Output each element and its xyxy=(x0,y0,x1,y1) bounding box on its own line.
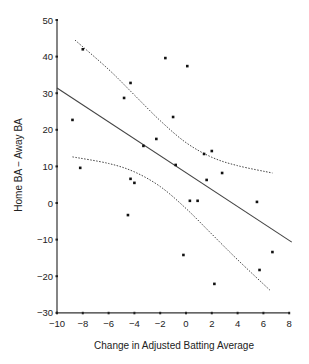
x-tick-label: 0 xyxy=(183,318,188,329)
y-tick-label: −30 xyxy=(37,307,53,318)
data-point xyxy=(189,200,192,203)
y-tick-mark xyxy=(56,275,59,277)
x-tick-label: 6 xyxy=(261,318,266,329)
x-tick-label: −6 xyxy=(103,318,114,329)
axes xyxy=(57,20,289,313)
x-tick-mark xyxy=(288,312,290,315)
y-tick-label: 40 xyxy=(42,51,53,62)
y-tick-label: 30 xyxy=(42,88,53,99)
data-point xyxy=(258,269,261,272)
data-point xyxy=(174,164,177,167)
data-point xyxy=(127,214,130,217)
x-tick-label: −10 xyxy=(49,318,65,329)
data-point xyxy=(186,65,189,68)
y-tick-label: −10 xyxy=(37,234,53,245)
lower-confidence-band xyxy=(72,157,269,290)
data-point xyxy=(213,283,216,286)
data-point xyxy=(133,182,136,185)
data-point xyxy=(182,254,185,257)
x-tick-mark xyxy=(108,312,110,315)
y-tick-label: 20 xyxy=(42,124,53,135)
x-tick-mark xyxy=(211,312,213,315)
x-tick-label: −4 xyxy=(129,318,140,329)
x-tick-label: 2 xyxy=(209,318,214,329)
data-point xyxy=(82,48,85,51)
x-tick-mark xyxy=(133,312,135,315)
data-point xyxy=(79,167,82,170)
y-tick-label: 10 xyxy=(42,161,53,172)
data-point xyxy=(123,97,126,100)
data-point xyxy=(164,57,167,60)
x-tick-label: 4 xyxy=(235,318,240,329)
x-axis-title: Change in Adjusted Batting Average xyxy=(94,340,254,351)
x-tick-label: −2 xyxy=(155,318,166,329)
scatter-chart: 50403020100−10−20−30 −10−8−6−4−202468 Ch… xyxy=(0,0,309,364)
x-tick-mark xyxy=(237,312,239,315)
y-tick-mark xyxy=(56,19,59,21)
data-point xyxy=(271,251,274,254)
data-point xyxy=(142,145,145,148)
x-tick-label: 8 xyxy=(287,318,292,329)
x-axis-ticks: −10−8−6−4−202468 xyxy=(49,312,292,329)
x-tick-mark xyxy=(185,312,187,315)
data-point xyxy=(211,150,214,153)
data-point xyxy=(221,172,224,175)
data-point xyxy=(129,82,132,85)
data-point xyxy=(172,116,175,119)
x-tick-label: −8 xyxy=(77,318,88,329)
y-tick-mark xyxy=(56,92,59,94)
y-tick-mark xyxy=(56,165,59,167)
y-axis-title: Home BA − Away BA xyxy=(13,118,24,212)
y-axis-ticks: 50403020100−10−20−30 xyxy=(37,15,58,319)
y-tick-mark xyxy=(56,202,59,204)
data-point xyxy=(155,138,158,141)
y-tick-mark xyxy=(56,56,59,58)
y-tick-label: 50 xyxy=(42,15,53,26)
data-point xyxy=(205,179,208,182)
upper-confidence-band xyxy=(75,40,272,173)
data-point xyxy=(256,201,259,204)
x-tick-mark xyxy=(159,312,161,315)
x-tick-mark xyxy=(262,312,264,315)
y-tick-label: 0 xyxy=(48,198,53,209)
data-point xyxy=(196,200,199,203)
data-point xyxy=(129,178,132,181)
y-tick-mark xyxy=(56,239,59,241)
y-tick-mark xyxy=(56,129,59,131)
x-tick-mark xyxy=(56,312,58,315)
y-tick-label: −20 xyxy=(37,271,53,282)
data-point xyxy=(203,153,206,156)
x-tick-mark xyxy=(82,312,84,315)
data-point xyxy=(71,119,74,122)
